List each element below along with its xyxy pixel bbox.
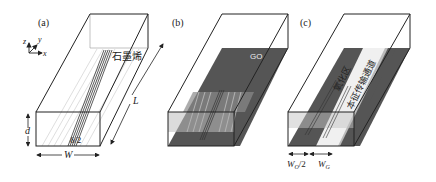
axis-z-label: z — [22, 37, 27, 46]
dim-wg-label: WG — [318, 159, 331, 170]
dim-w-label: W — [64, 149, 74, 160]
front-translucent-region-c — [288, 112, 354, 128]
dim-l-label: L — [132, 95, 139, 106]
front-translucent-region — [168, 112, 234, 132]
axis-y-label: y — [37, 35, 42, 44]
dim-delta-label: δ/2 — [70, 135, 81, 145]
channel-box — [36, 14, 148, 146]
axis-x-label: x — [42, 49, 47, 58]
panel-c-label: (c) — [300, 17, 311, 29]
axes-icon: z y x — [22, 35, 47, 58]
panel-a-label: (a) — [38, 17, 49, 29]
panel-a: (a) z y x 石墨烯 — [22, 14, 163, 160]
diagram-canvas: (a) z y x 石墨烯 — [0, 0, 436, 182]
graphene-stripes — [68, 50, 112, 146]
go-label: GO — [250, 52, 262, 61]
dim-d-label: d — [25, 125, 31, 136]
dim-l-down-arrow — [111, 104, 130, 144]
panel-b: (b) GO — [168, 14, 288, 146]
panel-b-label: (b) — [172, 17, 184, 29]
panel-c: (c) 氧化区 本征传输通道 WO/2 WG — [287, 14, 410, 170]
dim-wo-label: WO/2 — [287, 159, 306, 170]
